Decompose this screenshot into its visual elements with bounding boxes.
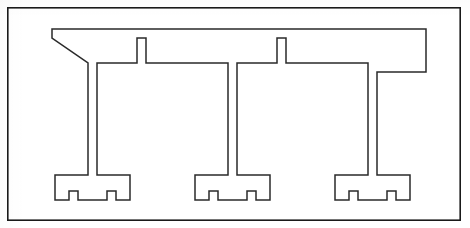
rail-profile-outline bbox=[52, 29, 426, 200]
figure-canvas bbox=[0, 0, 470, 228]
technical-drawing-svg bbox=[0, 0, 470, 228]
figure-border bbox=[8, 8, 460, 220]
rail-profile-group bbox=[52, 29, 426, 200]
